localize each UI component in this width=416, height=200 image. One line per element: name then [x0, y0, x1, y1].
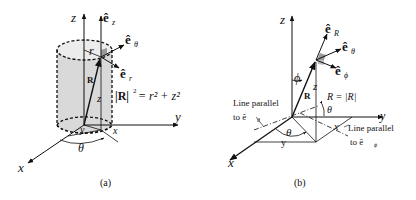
theta-top-label: θ — [327, 104, 332, 115]
svg-text:to ê: to ê — [233, 112, 246, 122]
svg-text:R: R — [333, 29, 339, 38]
x-axis — [28, 125, 84, 163]
svg-text:ê: ê — [103, 10, 109, 25]
etheta-label: ê θ — [342, 39, 355, 56]
svg-text:Line parallel: Line parallel — [348, 123, 394, 133]
phi-label: ϕ — [294, 71, 300, 85]
ez-label: ê z — [103, 10, 116, 27]
caption-a: (a) — [100, 177, 111, 189]
x-axis-label: x — [17, 160, 24, 175]
svg-text:ê: ê — [125, 32, 131, 47]
svg-text:= r² + z²: = r² + z² — [138, 89, 180, 103]
svg-text:z: z — [111, 18, 116, 27]
svg-text:2: 2 — [133, 87, 137, 95]
svg-text:ê: ê — [335, 63, 341, 78]
line-parallel-ephi-label: Line parallel to ê ϕ — [348, 123, 394, 148]
y-ground-label: y — [79, 124, 85, 135]
z-axis-label: z — [279, 12, 285, 27]
z-height-label: z — [312, 80, 318, 92]
er-label: ê r — [120, 66, 133, 83]
x-ground-label: x — [112, 125, 118, 136]
svg-text:ê: ê — [325, 21, 331, 36]
y-axis-label: y — [173, 109, 181, 124]
svg-text:θ: θ — [134, 40, 138, 49]
line-parallel-etheta-label: Line parallel to ê θ — [233, 98, 279, 123]
svg-text:ϕ: ϕ — [344, 71, 348, 80]
etheta-label: ê θ — [125, 32, 138, 49]
svg-text:ê: ê — [120, 66, 126, 81]
caption-b: (b) — [294, 177, 306, 189]
R-label: R — [304, 91, 311, 101]
x-axis-label: x — [227, 155, 234, 170]
R-magnitude-label: R = |R| — [326, 91, 356, 102]
svg-text:ϕ: ϕ — [374, 142, 377, 148]
x-ground-label: x — [333, 121, 339, 132]
svg-text:θ: θ — [351, 47, 355, 56]
svg-text:ê: ê — [342, 39, 348, 54]
equation-label: |R| 2 = r² + z² — [115, 87, 180, 103]
svg-text:to ê: to ê — [350, 137, 363, 147]
svg-text:r: r — [129, 74, 133, 83]
eR-label: ê R — [325, 21, 339, 38]
r-label: r — [89, 44, 94, 58]
y-ground-label: y — [281, 137, 286, 148]
ground-radial — [292, 117, 316, 142]
ephi-label: ê ϕ — [335, 63, 348, 80]
theta-arc-top — [322, 104, 324, 116]
theta-label: θ — [78, 141, 84, 155]
svg-text:|R|: |R| — [115, 89, 129, 103]
theta-ground-label: θ — [286, 126, 292, 138]
R-label: R — [87, 75, 94, 85]
z-height-label: z — [96, 92, 102, 104]
coordinate-systems-figure: z ê z ê θ ê r r R z |R| 2 = r² + z² y y … — [0, 0, 416, 200]
panel-b-spherical: z ê R ê θ ê ϕ ϕ R z R = |R| θ y θ y x x … — [227, 12, 394, 189]
z-axis-label: z — [70, 10, 76, 25]
y-axis-label: y — [379, 109, 386, 123]
panel-a-cylindrical: z ê z ê θ ê r r R z |R| 2 = r² + z² y y … — [17, 10, 181, 189]
svg-text:Line parallel: Line parallel — [233, 98, 279, 108]
